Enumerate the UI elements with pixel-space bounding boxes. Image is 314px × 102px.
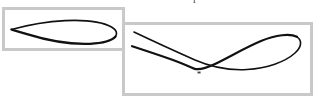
clipped-running-text: manifold taper of the threefold — [138, 0, 314, 7]
cusp-curve-svg — [5, 10, 122, 48]
node-asterisk-icon: * — [197, 69, 202, 79]
figure-page: manifold taper of the threefold * — [0, 0, 314, 102]
node-curve-panel: * — [122, 22, 313, 96]
cusp-curve-panel — [2, 7, 125, 51]
node-curve-loop-branch — [132, 35, 297, 69]
node-curve-svg: * — [125, 25, 310, 93]
cusp-curve-lower-arc — [12, 30, 116, 44]
clipped-running-text-line: manifold taper of the threefold — [138, 0, 314, 2]
node-curve-panel-inner: * — [125, 25, 310, 93]
cusp-curve-panel-inner — [5, 10, 122, 48]
